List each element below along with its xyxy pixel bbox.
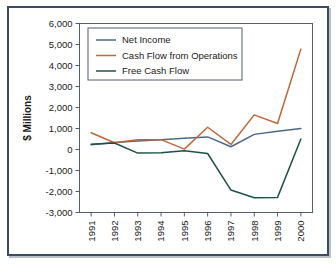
x-axis-tick-labels: 1991199219931994199519961997199819992000: [86, 221, 307, 242]
x-axis-tick-label: 1999: [272, 221, 283, 242]
chart-figure: 6,0005,0004,0003,0002,0001,0000-1,000-2,…: [0, 0, 336, 268]
y-axis-tick-labels: 6,0005,0004,0003,0002,0001,0000-1,000-2,…: [46, 18, 73, 218]
y-axis-tick-label: 4,000: [49, 60, 73, 71]
y-axis-tick-label: 2,000: [49, 102, 73, 113]
y-axis-tick-marks: [76, 24, 80, 213]
y-axis-tick-label: 1,000: [49, 123, 73, 134]
x-axis-tick-label: 1998: [249, 221, 260, 242]
x-axis-tick-marks: [91, 213, 301, 217]
x-axis-tick-label: 1993: [132, 221, 143, 242]
x-axis-tick-label: 1994: [155, 221, 166, 242]
legend-label: Cash Flow from Operations: [122, 50, 238, 61]
y-axis-tick-label: 0: [67, 144, 72, 155]
line-chart: 6,0005,0004,0003,0002,0001,0000-1,000-2,…: [0, 0, 336, 268]
x-axis-tick-label: 1991: [86, 221, 97, 242]
series-line-free-cash-flow: [91, 139, 301, 198]
x-axis-tick-label: 2000: [295, 221, 306, 242]
x-axis-tick-label: 1995: [179, 221, 190, 242]
y-axis-tick-label: 5,000: [49, 39, 73, 50]
legend-label: Net Income: [122, 34, 171, 45]
x-axis-tick-label: 1992: [109, 221, 120, 242]
y-axis-tick-label: 6,000: [49, 18, 73, 29]
y-axis-title: $ Millions: [22, 95, 33, 141]
chart-legend: Net IncomeCash Flow from OperationsFree …: [88, 28, 242, 80]
x-axis-tick-label: 1997: [225, 221, 236, 242]
y-axis-tick-label: -3,000: [46, 207, 73, 218]
y-axis-tick-label: -2,000: [46, 186, 73, 197]
y-axis-tick-label: 3,000: [49, 81, 73, 92]
y-axis-tick-label: -1,000: [46, 165, 73, 176]
legend-label: Free Cash Flow: [122, 65, 189, 76]
x-axis-tick-label: 1996: [202, 221, 213, 242]
